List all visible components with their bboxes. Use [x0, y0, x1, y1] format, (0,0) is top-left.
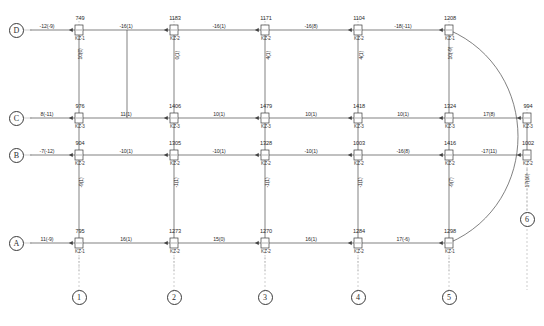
- grid-bubble-column-4[interactable]: 4: [351, 290, 366, 305]
- force-arrow-D3: [256, 28, 259, 31]
- span-value-h-D-4: -18(-11): [394, 24, 411, 29]
- force-arrow-B5: [440, 153, 443, 156]
- axial-value-A2: 1273: [169, 229, 181, 235]
- force-arrow-A1: [70, 241, 73, 244]
- axial-value-D2: 1183: [169, 16, 181, 22]
- axial-value-C1: 976: [75, 104, 84, 110]
- column-tag-B2: KZ-2: [170, 162, 180, 167]
- curved-beam-path: [449, 30, 518, 243]
- span-value-h-A-20: 16(1): [305, 237, 317, 242]
- axial-value-C2: 1406: [169, 104, 181, 110]
- span-value-v-2-6: -1(1): [173, 177, 178, 187]
- force-arrow-B2: [165, 153, 168, 156]
- span-value-v-1-5: -9(1): [78, 177, 83, 187]
- grid-bubble-column-3[interactable]: 3: [258, 290, 273, 305]
- span-value-h-B-14: -10(1): [304, 149, 317, 154]
- span-value-v-3-2: 4(1): [265, 51, 270, 60]
- grid-bubble-column-6[interactable]: 6: [520, 212, 535, 227]
- column-tag-C4: KZ-3: [354, 125, 364, 130]
- span-value-h-C-8: 10(1): [305, 112, 317, 117]
- axial-value-C5: 1324: [444, 104, 456, 110]
- span-value-h-B-15: -16(8): [396, 149, 409, 154]
- column-tag-D3: KZ-2: [261, 37, 271, 42]
- force-arrow-C4: [349, 116, 352, 119]
- column-tag-C6: KZ-3: [523, 125, 533, 130]
- axial-value-B5: 1416: [444, 141, 456, 147]
- grid-bubble-row-C[interactable]: C: [9, 111, 24, 126]
- axial-value-D4: 1104: [353, 16, 365, 22]
- grid-bubble-column-5[interactable]: 5: [442, 290, 457, 305]
- axial-value-B2: 1305: [169, 141, 181, 147]
- column-tag-D5: KZ-1: [445, 37, 455, 42]
- column-tag-C1: KZ-3: [75, 125, 85, 130]
- force-arrow-C5: [440, 116, 443, 119]
- axial-value-B4: 1003: [353, 141, 365, 147]
- force-arrow-B6: [518, 153, 521, 156]
- axial-value-A4: 1284: [353, 229, 365, 235]
- force-arrow-D4: [349, 28, 352, 31]
- force-arrow-C3: [256, 116, 259, 119]
- axial-value-C4: 1418: [353, 104, 365, 110]
- span-value-h-D-1: -16(1): [119, 24, 132, 29]
- span-value-h-C-7: 10(1): [213, 112, 225, 117]
- column-tag-C5: KZ-3: [445, 125, 455, 130]
- column-tag-A4: KZ-2: [354, 250, 364, 255]
- axial-value-A5: 1298: [444, 229, 456, 235]
- force-arrow-A5: [440, 241, 443, 244]
- axial-value-D1: 749: [75, 16, 84, 22]
- force-arrow-B4: [349, 153, 352, 156]
- column-tag-B6: KZ-2: [523, 162, 533, 167]
- span-value-h-B-11: -7(-12): [40, 149, 55, 154]
- span-value-h-D-2: -16(1): [212, 24, 225, 29]
- column-tag-A2: KZ-2: [170, 250, 180, 255]
- grid-bubble-row-A[interactable]: A: [9, 236, 24, 251]
- column-tag-C3: KZ-3: [261, 125, 271, 130]
- span-value-v-3-7: -1(1): [264, 177, 269, 187]
- grid-bubble-row-B[interactable]: B: [9, 148, 24, 163]
- force-arrow-C6: [518, 116, 521, 119]
- axial-value-C6: 994: [523, 104, 532, 110]
- axial-value-B1: 904: [75, 141, 84, 147]
- column-tag-A5: KZ-1: [445, 250, 455, 255]
- force-arrow-B3: [256, 153, 259, 156]
- span-value-h-D-0: -12(-9): [40, 24, 55, 29]
- span-value-v-1-0: 10(0): [78, 48, 83, 59]
- axial-value-A3: 1270: [260, 229, 272, 235]
- axial-value-D5: 1208: [444, 16, 456, 22]
- span-value-v-4-3: 4(1): [358, 51, 363, 60]
- span-value-h-C-6: 11(1): [120, 112, 131, 117]
- force-arrow-A2: [165, 241, 168, 244]
- force-arrow-C1: [70, 116, 73, 119]
- column-tag-D1: KZ-1: [75, 37, 85, 42]
- span-value-v-5-9: -9(7): [448, 177, 453, 187]
- column-tag-B5: KZ-2: [445, 162, 455, 167]
- span-value-h-B-13: -10(1): [212, 149, 225, 154]
- column-tag-A3: KZ-2: [261, 250, 271, 255]
- force-arrow-D5: [440, 28, 443, 31]
- force-arrow-C2: [165, 116, 168, 119]
- span-value-h-A-18: 16(1): [120, 237, 132, 242]
- grid-bubble-row-D[interactable]: D: [9, 23, 24, 38]
- span-value-v-4-8: -1(1): [357, 177, 362, 187]
- axial-value-A1: 795: [75, 229, 84, 235]
- axial-value-C3: 1479: [260, 104, 272, 110]
- force-arrow-B1: [70, 153, 73, 156]
- span-value-h-A-19: 15(0): [213, 237, 225, 242]
- span-value-h-C-5: 8(-11): [41, 112, 54, 117]
- force-arrow-D1: [70, 28, 73, 31]
- column-tag-B3: KZ-2: [261, 162, 271, 167]
- axial-value-B6: 1002: [522, 141, 534, 147]
- column-tag-D4: KZ-2: [354, 37, 364, 42]
- span-value-h-B-16: -17(11): [481, 149, 497, 154]
- axial-value-D3: 1171: [260, 16, 272, 22]
- grid-bubble-column-1[interactable]: 1: [72, 290, 87, 305]
- span-value-h-D-3: -16(8): [304, 24, 317, 29]
- grid-bubble-column-2[interactable]: 2: [167, 290, 182, 305]
- column-tag-A1: KZ-1: [75, 250, 85, 255]
- force-arrow-D2: [165, 28, 168, 31]
- force-arrow-A3: [256, 241, 259, 244]
- span-value-v-6-10: 17(10): [525, 174, 530, 188]
- span-value-v-2-1: 0(1): [174, 51, 179, 60]
- span-value-h-A-17: 11(-9): [41, 237, 54, 242]
- axial-value-B3: 1328: [260, 141, 272, 147]
